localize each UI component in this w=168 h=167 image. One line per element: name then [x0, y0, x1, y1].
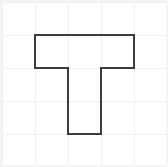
figure-container	[0, 0, 168, 167]
t-shape-diagram	[0, 0, 168, 167]
canvas-background	[0, 0, 168, 167]
